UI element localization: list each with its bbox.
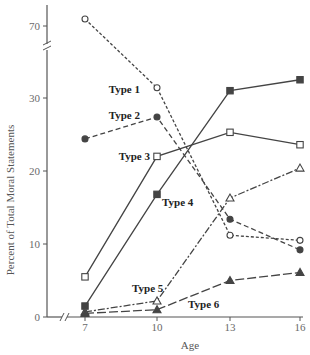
x-tick-label: 16 — [295, 321, 307, 333]
y-tick-label: 70 — [29, 20, 41, 32]
series-type-6: Type 6 — [81, 268, 304, 316]
data-point-triangle — [226, 277, 234, 284]
data-point-circle — [82, 136, 88, 142]
y-tick-label: 20 — [29, 165, 41, 177]
series-label: Type 3 — [119, 150, 151, 162]
series-label: Type 1 — [109, 83, 140, 95]
data-point-circle — [297, 237, 303, 243]
series-label: Type 6 — [188, 298, 220, 310]
data-point-circle — [154, 114, 160, 120]
data-point-circle — [227, 232, 233, 238]
data-point-square — [297, 77, 303, 83]
data-point-square — [154, 153, 160, 159]
data-point-square — [227, 88, 233, 94]
data-point-circle — [82, 16, 88, 22]
data-point-square — [82, 274, 88, 280]
series-label: Type 2 — [109, 109, 141, 121]
x-axis-title: Age — [181, 339, 199, 351]
line-chart: 0102030707101316AgePercent of Total Mora… — [0, 0, 310, 355]
series-type-1: Type 1 — [82, 16, 303, 243]
x-tick-label: 7 — [82, 321, 88, 333]
data-point-square — [297, 142, 303, 148]
data-point-circle — [154, 85, 160, 91]
data-point-triangle — [153, 297, 161, 304]
data-point-square — [227, 129, 233, 135]
y-tick-label: 0 — [35, 311, 41, 323]
data-point-square — [154, 191, 160, 197]
y-axis-title: Percent of Total Moral Statements — [4, 125, 16, 276]
data-point-triangle — [296, 268, 304, 275]
data-point-triangle — [296, 164, 304, 171]
series-type-5: Type 5 — [81, 164, 304, 315]
data-point-circle — [297, 247, 303, 253]
series-label: Type 4 — [162, 196, 194, 208]
axis-break-mark — [43, 46, 51, 50]
y-tick-label: 10 — [29, 238, 41, 250]
series-type-2: Type 2 — [82, 109, 303, 253]
x-tick-label: 13 — [225, 321, 237, 333]
y-tick-label: 30 — [29, 92, 41, 104]
x-tick-label: 10 — [152, 321, 164, 333]
series-label: Type 5 — [132, 282, 164, 294]
data-point-circle — [227, 216, 233, 222]
